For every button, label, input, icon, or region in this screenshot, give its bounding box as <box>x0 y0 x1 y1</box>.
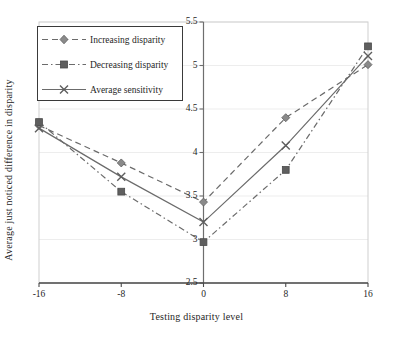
chart-legend: Increasing disparity Decreasing disparit… <box>37 26 183 101</box>
data-point-marker <box>365 43 372 50</box>
x-tick-label: 0 <box>184 289 224 299</box>
x-axis-title: Testing disparity level <box>0 311 393 322</box>
data-point-marker <box>200 239 207 246</box>
y-tick-label: 4 <box>164 147 198 157</box>
legend-item-average-sensitivity[interactable]: Average sensitivity <box>38 77 184 102</box>
y-axis-title: Average just noticed difference in dispa… <box>0 0 16 339</box>
x-tick-label: -8 <box>101 289 141 299</box>
y-tick-label: 5.5 <box>164 16 198 26</box>
x-tick-label: 16 <box>348 289 388 299</box>
data-point-marker <box>282 142 290 150</box>
x-tick-label: 8 <box>266 289 306 299</box>
y-tick-label: 2.5 <box>164 277 198 287</box>
x-tick-label: -16 <box>19 289 59 299</box>
chart-figure: Average just noticed difference in dispa… <box>0 0 393 339</box>
legend-swatch-decreasing-disparity <box>38 52 90 77</box>
legend-swatch-average-sensitivity <box>38 77 90 102</box>
legend-item-decreasing-disparity[interactable]: Decreasing disparity <box>38 52 184 77</box>
legend-label-average-sensitivity: Average sensitivity <box>90 85 163 95</box>
data-point-marker <box>118 188 125 195</box>
data-point-marker <box>364 61 372 69</box>
x-axis <box>39 283 368 287</box>
legend-swatch-increasing-disparity <box>38 27 90 52</box>
data-point-marker <box>117 159 125 167</box>
data-point-marker <box>36 119 43 126</box>
legend-label-increasing-disparity: Increasing disparity <box>90 35 165 45</box>
y-tick-label: 3 <box>164 234 198 244</box>
legend-item-increasing-disparity[interactable]: Increasing disparity <box>38 27 184 52</box>
y-tick-label: 3.5 <box>164 190 198 200</box>
y-axis-title-text: Average just noticed difference in dispa… <box>3 79 14 260</box>
data-point-marker <box>117 173 125 181</box>
data-point-marker <box>282 167 289 174</box>
legend-label-decreasing-disparity: Decreasing disparity <box>90 60 168 70</box>
y-tick-label: 4.5 <box>164 103 198 113</box>
